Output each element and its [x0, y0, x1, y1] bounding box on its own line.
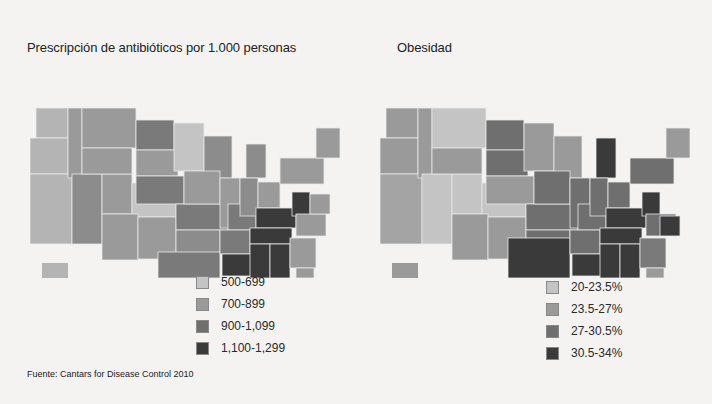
- legend-item: 900-1,099: [196, 315, 285, 337]
- legend-label: 1,100-1,299: [221, 341, 285, 355]
- legend-label: 20-23.5%: [571, 280, 622, 294]
- states: [30, 108, 340, 278]
- antibiotics-panel: Prescripción de antibióticos por 1.000 p…: [0, 0, 360, 404]
- legend-item: 30.5-34%: [546, 342, 622, 364]
- legend-swatch: [546, 347, 559, 360]
- legend-label: 27-30.5%: [571, 324, 622, 338]
- obesity-panel: Obesidad: [360, 0, 712, 404]
- obesity-map-title: Obesidad: [397, 40, 452, 55]
- obesity-us-map: [380, 88, 690, 278]
- obesity-legend: 20-23.5% 23.5-27% 27-30.5% 30.5-34%: [546, 276, 622, 364]
- legend-swatch: [196, 276, 209, 289]
- legend-item: 1,100-1,299: [196, 337, 285, 359]
- legend-label: 30.5-34%: [571, 346, 622, 360]
- legend-label: 900-1,099: [221, 319, 275, 333]
- legend-item: 27-30.5%: [546, 320, 622, 342]
- legend-label: 23.5-27%: [571, 302, 622, 316]
- antibiotics-us-map: [30, 88, 340, 278]
- legend-item: 500-699: [196, 271, 285, 293]
- legend-swatch: [546, 303, 559, 316]
- alaska: [42, 263, 68, 278]
- legend-item: 20-23.5%: [546, 276, 622, 298]
- legend-item: 23.5-27%: [546, 298, 622, 320]
- antibiotics-legend: 500-699 700-899 900-1,099 1,100-1,299: [196, 271, 285, 359]
- legend-label: 700-899: [221, 297, 265, 311]
- legend-swatch: [196, 298, 209, 311]
- legend-label: 500-699: [221, 275, 265, 289]
- legend-item: 700-899: [196, 293, 285, 315]
- source-note: Fuente: Cantars for Disease Control 2010: [27, 369, 194, 379]
- alaska: [392, 263, 418, 278]
- legend-swatch: [196, 342, 209, 355]
- antibiotics-map-title: Prescripción de antibióticos por 1.000 p…: [27, 40, 296, 55]
- states: [380, 108, 690, 278]
- legend-swatch: [546, 281, 559, 294]
- legend-swatch: [196, 320, 209, 333]
- legend-swatch: [546, 325, 559, 338]
